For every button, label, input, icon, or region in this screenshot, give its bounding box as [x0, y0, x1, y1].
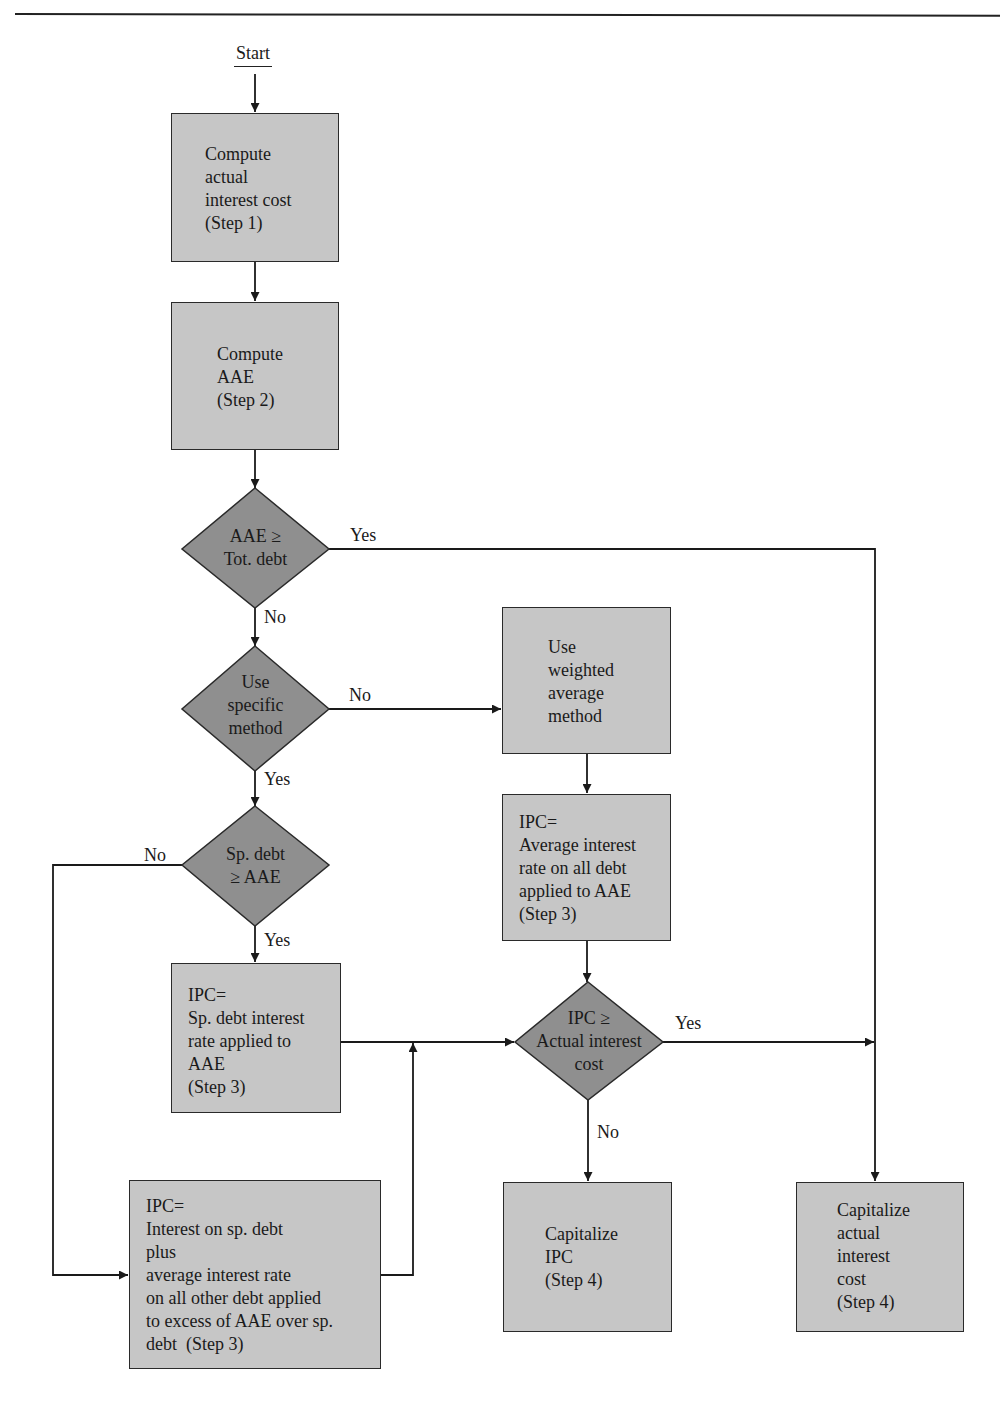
- node-text: Use weighted average method: [548, 636, 614, 728]
- node-text: AAE ≥ Tot. debt: [182, 525, 329, 571]
- start-label: Start: [234, 42, 272, 67]
- decision-use-specific-method[interactable]: Use specific method: [182, 646, 329, 771]
- process-capitalize-ipc[interactable]: Capitalize IPC (Step 4): [503, 1182, 672, 1332]
- edge-label-specific-yes: Yes: [264, 769, 290, 789]
- process-ipc-sp-debt-plus-other-debt[interactable]: IPC= Interest on sp. debt plus average i…: [129, 1180, 381, 1369]
- process-ipc-average-rate-all-debt[interactable]: IPC= Average interest rate on all debt a…: [502, 794, 671, 941]
- edge-label-spdebt-yes: Yes: [264, 930, 290, 950]
- node-text: IPC= Sp. debt interest rate applied to A…: [188, 984, 304, 1099]
- edge-label-ipc-yes: Yes: [675, 1013, 701, 1033]
- node-text: IPC= Average interest rate on all debt a…: [519, 811, 636, 926]
- decision-ipc-vs-actual-interest-cost[interactable]: IPC ≥ Actual interest cost: [515, 982, 663, 1100]
- node-text: IPC= Interest on sp. debt plus average i…: [146, 1195, 333, 1356]
- node-text: Capitalize actual interest cost (Step 4): [837, 1199, 910, 1314]
- node-text: Compute actual interest cost (Step 1): [205, 143, 291, 235]
- process-ipc-sp-debt-rate[interactable]: IPC= Sp. debt interest rate applied to A…: [171, 963, 341, 1113]
- node-text: Use specific method: [182, 671, 329, 740]
- edge-label-aae-no: No: [264, 607, 286, 627]
- node-text: Sp. debt ≥ AAE: [182, 843, 329, 889]
- node-text: Compute AAE (Step 2): [217, 343, 283, 412]
- decision-aae-vs-total-debt[interactable]: AAE ≥ Tot. debt: [182, 488, 329, 608]
- node-text: IPC ≥ Actual interest cost: [515, 1007, 663, 1076]
- process-use-weighted-average-method[interactable]: Use weighted average method: [502, 607, 671, 754]
- decision-sp-debt-vs-aae[interactable]: Sp. debt ≥ AAE: [182, 806, 329, 926]
- edge-label-spdebt-no: No: [144, 845, 166, 865]
- edge-label-specific-no: No: [349, 685, 371, 705]
- edge-label-aae-yes: Yes: [350, 525, 376, 545]
- process-capitalize-actual-interest-cost[interactable]: Capitalize actual interest cost (Step 4): [796, 1182, 964, 1332]
- edge-label-ipc-no: No: [597, 1122, 619, 1142]
- node-text: Capitalize IPC (Step 4): [545, 1223, 618, 1292]
- process-compute-actual-interest-cost[interactable]: Compute actual interest cost (Step 1): [171, 113, 339, 262]
- process-compute-aae[interactable]: Compute AAE (Step 2): [171, 302, 339, 450]
